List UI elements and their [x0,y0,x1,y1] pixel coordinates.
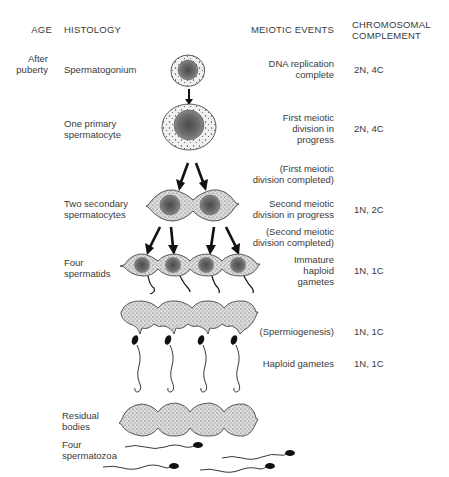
spermiogenesis-cells [121,301,258,392]
arrows-second-division-icon [145,227,240,255]
spermatids-cells [120,254,260,294]
secondary-spermatocytes-cells [146,190,239,221]
arrows-first-division-icon [176,163,208,191]
spermatozoa [103,442,295,472]
spermatogonium-cell [171,55,205,86]
spermatogenesis-illustration [0,0,449,477]
residual-bodies [119,403,258,436]
primary-spermatocyte-cell [162,104,216,150]
